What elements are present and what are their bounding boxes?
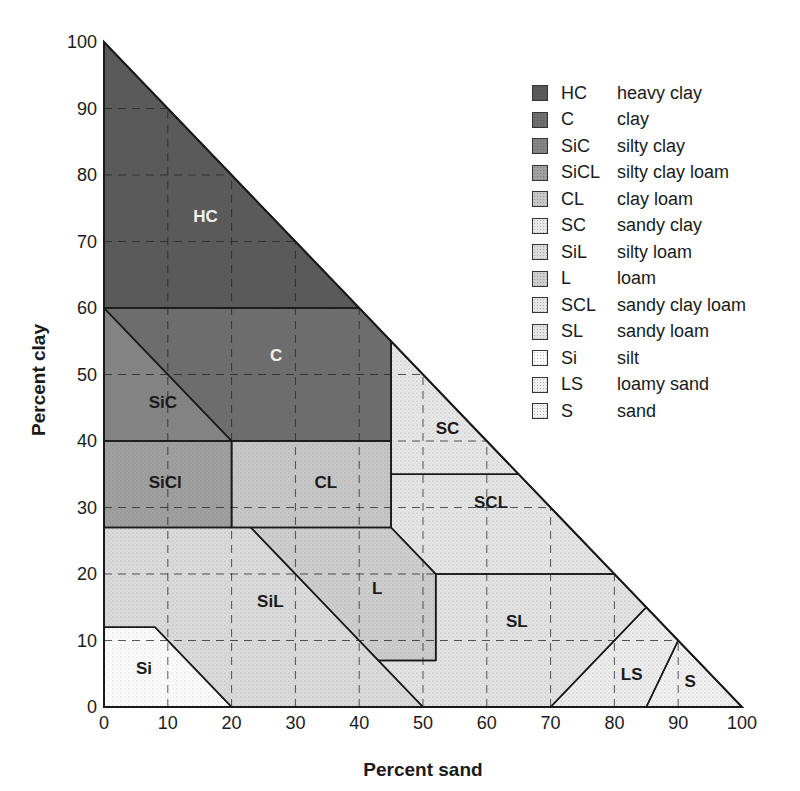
region-texture xyxy=(232,441,392,527)
y-tick: 50 xyxy=(77,365,97,385)
legend-swatch xyxy=(532,377,548,393)
legend-abbr: C xyxy=(561,109,617,130)
legend-swatch xyxy=(532,350,548,366)
legend-abbr: SiCL xyxy=(561,162,617,183)
legend-name: clay loam xyxy=(617,189,693,210)
x-axis-title: Percent sand xyxy=(363,759,482,780)
y-tick: 0 xyxy=(87,697,97,717)
x-tick: 80 xyxy=(604,713,624,733)
y-tick: 40 xyxy=(77,431,97,451)
legend-item-sic: SiCsilty clay xyxy=(532,133,746,160)
legend-item-c: Cclay xyxy=(532,107,746,134)
legend-name: sandy clay xyxy=(617,215,702,236)
y-axis-ticks: 0102030405060708090100 xyxy=(67,32,97,717)
x-tick: 40 xyxy=(349,713,369,733)
legend-abbr: S xyxy=(561,401,617,422)
legend-swatch xyxy=(532,297,548,313)
legend-abbr: Si xyxy=(561,348,617,369)
legend-abbr: SC xyxy=(561,215,617,236)
legend-swatch xyxy=(532,85,548,101)
region-label-sil: SiL xyxy=(257,592,283,611)
legend-item-si: Sisilt xyxy=(532,345,746,372)
legend-item-ls: LSloamy sand xyxy=(532,372,746,399)
legend-swatch xyxy=(532,165,548,181)
region-texture xyxy=(391,474,614,574)
x-tick: 0 xyxy=(99,713,109,733)
y-tick: 90 xyxy=(77,99,97,119)
legend-name: silty clay xyxy=(617,136,685,157)
legend: HCheavy clayCclaySiCsilty claySiCLsilty … xyxy=(532,80,746,425)
y-tick: 60 xyxy=(77,298,97,318)
x-tick: 30 xyxy=(285,713,305,733)
legend-swatch xyxy=(532,138,548,154)
legend-name: loam xyxy=(617,268,656,289)
legend-name: silty clay loam xyxy=(617,162,729,183)
legend-abbr: SCL xyxy=(561,295,617,316)
region-label-c: C xyxy=(270,346,282,365)
legend-name: silty loam xyxy=(617,242,692,263)
legend-swatch xyxy=(532,112,548,128)
legend-name: loamy sand xyxy=(617,374,709,395)
legend-swatch xyxy=(532,403,548,419)
region-label-sl: SL xyxy=(506,612,528,631)
y-tick: 10 xyxy=(77,631,97,651)
legend-swatch xyxy=(532,218,548,234)
legend-item-sicl: SiCLsilty clay loam xyxy=(532,160,746,187)
region-label-hc: HC xyxy=(193,207,218,226)
legend-name: sand xyxy=(617,401,656,422)
legend-item-s: Ssand xyxy=(532,398,746,425)
legend-name: silt xyxy=(617,348,639,369)
legend-abbr: HC xyxy=(561,83,617,104)
region-label-sicl: SiCl xyxy=(149,473,182,492)
legend-name: sandy loam xyxy=(617,321,709,342)
legend-abbr: L xyxy=(561,268,617,289)
region-label-l: L xyxy=(372,579,382,598)
y-tick: 100 xyxy=(67,32,97,52)
y-tick: 70 xyxy=(77,232,97,252)
region-label-sic: SiC xyxy=(149,393,177,412)
region-label-scl: SCL xyxy=(474,493,508,512)
legend-item-cl: CLclay loam xyxy=(532,186,746,213)
x-tick: 10 xyxy=(158,713,178,733)
legend-item-scl: SCLsandy clay loam xyxy=(532,292,746,319)
legend-swatch xyxy=(532,244,548,260)
y-tick: 20 xyxy=(77,564,97,584)
x-tick: 90 xyxy=(668,713,688,733)
legend-swatch xyxy=(532,271,548,287)
legend-abbr: LS xyxy=(561,374,617,395)
region-label-ls: LS xyxy=(621,665,643,684)
legend-name: heavy clay xyxy=(617,83,702,104)
legend-abbr: CL xyxy=(561,189,617,210)
x-tick: 100 xyxy=(727,713,757,733)
region-label-sc: SC xyxy=(436,419,460,438)
x-tick: 50 xyxy=(413,713,433,733)
y-axis-title: Percent clay xyxy=(28,324,49,436)
legend-swatch xyxy=(532,191,548,207)
legend-item-sl: SLsandy loam xyxy=(532,319,746,346)
legend-abbr: SL xyxy=(561,321,617,342)
legend-abbr: SiC xyxy=(561,136,617,157)
region-label-si: Si xyxy=(136,659,152,678)
legend-name: sandy clay loam xyxy=(617,295,746,316)
legend-name: clay xyxy=(617,109,649,130)
y-tick: 30 xyxy=(77,498,97,518)
legend-item-sc: SCsandy clay xyxy=(532,213,746,240)
region-label-s: S xyxy=(685,672,696,691)
x-tick: 60 xyxy=(477,713,497,733)
legend-abbr: SiL xyxy=(561,242,617,263)
y-tick: 80 xyxy=(77,165,97,185)
legend-item-sil: SiLsilty loam xyxy=(532,239,746,266)
x-tick: 20 xyxy=(222,713,242,733)
legend-item-hc: HCheavy clay xyxy=(532,80,746,107)
legend-swatch xyxy=(532,324,548,340)
region-label-cl: CL xyxy=(315,473,338,492)
legend-item-l: Lloam xyxy=(532,266,746,293)
x-tick: 70 xyxy=(541,713,561,733)
x-axis-ticks: 0102030405060708090100 xyxy=(99,713,757,733)
